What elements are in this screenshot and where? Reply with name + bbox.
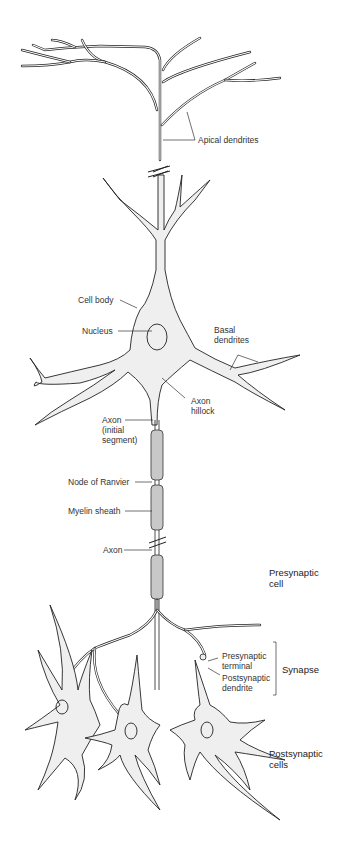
label-synapse: Synapse	[282, 664, 319, 675]
label-basal-dendrites: Basal dendrites	[214, 325, 249, 345]
label-apical-dendrites: Apical dendrites	[198, 135, 258, 145]
myelin-segment	[151, 485, 163, 530]
myelin-segment	[151, 430, 163, 480]
label-presynaptic-terminal: Presynaptic terminal	[222, 651, 266, 671]
axon	[149, 420, 166, 690]
label-node-of-ranvier: Node of Ranvier	[68, 477, 129, 487]
label-presynaptic-cell: Presynaptic cell	[269, 567, 319, 589]
postsynaptic-cell-1	[25, 605, 100, 800]
label-myelin-sheath: Myelin sheath	[68, 506, 120, 516]
label-nucleus: Nucleus	[82, 326, 113, 336]
myelin-segment	[151, 555, 163, 599]
label-cell-body: Cell body	[78, 295, 113, 305]
label-axon-initial-segment: Axon (initial segment)	[102, 415, 137, 445]
label-postsynaptic-dendrite: Postsynaptic dendrite	[222, 673, 270, 693]
label-axon-hillock: Axon hillock	[191, 396, 215, 416]
apical-dendrites	[22, 38, 280, 177]
presynaptic-soma	[30, 166, 300, 425]
label-postsynaptic-cells: Postsynaptic cells	[269, 748, 323, 770]
postsynaptic-cell-2	[85, 655, 160, 810]
neuron-diagram	[0, 0, 340, 863]
label-axon: Axon	[103, 545, 122, 555]
